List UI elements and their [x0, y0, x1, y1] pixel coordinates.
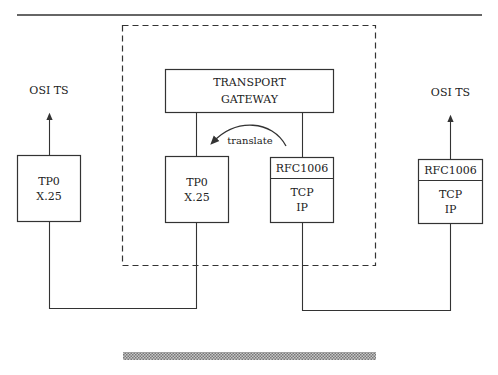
gateway-rfc1006-label: RFC1006: [270, 161, 334, 176]
left-x25-label: X.25: [17, 189, 81, 204]
gateway-title-line2: GATEWAY: [165, 92, 334, 107]
ip-link: [303, 222, 451, 311]
left-tp0-label: TP0: [17, 174, 81, 189]
gateway-ip-label: IP: [270, 200, 334, 215]
right-osi-ts-label: OSI TS: [418, 85, 483, 100]
right-rfc1006-label: RFC1006: [418, 163, 483, 178]
left-osi-ts-label: OSI TS: [17, 83, 81, 98]
gateway-x25-label: X.25: [165, 190, 229, 205]
right-ip-label: IP: [418, 202, 483, 217]
translate-label: translate: [220, 133, 280, 148]
right-tcp-label: TCP: [418, 187, 483, 202]
gateway-tcp-label: TCP: [270, 185, 334, 200]
gateway-tp0-label: TP0: [165, 175, 229, 190]
gateway-title-line1: TRANSPORT: [165, 75, 334, 90]
x25-link: [50, 221, 197, 309]
hatched-bar: [123, 352, 376, 360]
